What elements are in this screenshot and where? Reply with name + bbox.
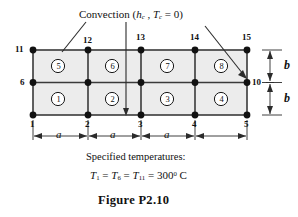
element-label-3: 3 bbox=[163, 95, 172, 104]
element-label-1: 1 bbox=[54, 95, 63, 104]
dim-arrow-a2-left bbox=[89, 133, 97, 139]
dim-arrow-a1-left bbox=[34, 133, 42, 139]
temp-unit: C bbox=[180, 169, 187, 181]
node-label-12: 12 bbox=[83, 36, 92, 45]
element-label-4: 4 bbox=[217, 95, 226, 104]
node-label-15: 15 bbox=[242, 33, 251, 42]
node-point-9 bbox=[192, 79, 199, 86]
node-label-5: 5 bbox=[244, 120, 249, 129]
dimension-label-b-bottom: b bbox=[284, 92, 290, 104]
dimension-label-b-top: b bbox=[284, 59, 290, 71]
dimension-label-a1: a bbox=[56, 129, 62, 140]
node-point-15 bbox=[244, 47, 251, 54]
dim-arrow-a3-right bbox=[186, 133, 194, 139]
node-label-6: 6 bbox=[20, 78, 25, 87]
dim-arrow-a2-right bbox=[132, 133, 140, 139]
convection-equals-zero: = 0) bbox=[162, 8, 183, 20]
convection-separator: , bbox=[145, 8, 153, 20]
figure-p210: Convection (hc , Tc = 0) 11 12 13 14 15 … bbox=[0, 0, 298, 217]
dim-arrow-b-top-up bbox=[267, 51, 273, 59]
element-label-7: 7 bbox=[163, 62, 172, 71]
figure-caption: Figure P2.10 bbox=[98, 194, 169, 207]
node-label-2: 2 bbox=[85, 120, 90, 129]
node-point-1 bbox=[30, 112, 37, 119]
node-label-13: 13 bbox=[136, 33, 145, 42]
dimension-label-a2: a bbox=[110, 129, 116, 140]
element-label-8: 8 bbox=[217, 62, 226, 71]
specified-temperatures-title: Specified temperatures: bbox=[86, 152, 185, 163]
node-point-4 bbox=[192, 112, 199, 119]
mesh-diagram-svg bbox=[0, 0, 298, 217]
dim-arrow-a1-right bbox=[79, 133, 87, 139]
node-label-10: 10 bbox=[252, 78, 261, 87]
dim-arrow-b-bottom-down bbox=[267, 106, 273, 114]
convection-label: Convection (hc , Tc = 0) bbox=[79, 9, 183, 21]
temperature-equation: T1 = T6 = T11 = 3000 C bbox=[90, 170, 187, 182]
node-label-14: 14 bbox=[190, 33, 199, 42]
node-label-1: 1 bbox=[30, 120, 35, 129]
dimension-label-a3: a bbox=[164, 129, 170, 140]
node-label-3: 3 bbox=[138, 120, 143, 129]
element-label-2: 2 bbox=[108, 95, 117, 104]
node-point-13 bbox=[138, 47, 145, 54]
node-label-11: 11 bbox=[15, 45, 24, 54]
node-point-5 bbox=[244, 112, 251, 119]
dim-arrow-a3-left bbox=[142, 133, 150, 139]
node-point-14 bbox=[192, 47, 199, 54]
node-point-2 bbox=[85, 112, 92, 119]
node-point-12 bbox=[85, 47, 92, 54]
element-label-5: 5 bbox=[54, 62, 63, 71]
element-label-6: 6 bbox=[108, 62, 117, 71]
node-point-10 bbox=[244, 79, 251, 86]
dim-arrow-b-bottom-up bbox=[267, 84, 273, 92]
node-point-7 bbox=[85, 79, 92, 86]
dim-arrow-a4-right bbox=[238, 133, 246, 139]
node-point-11 bbox=[30, 47, 37, 54]
node-point-6 bbox=[30, 79, 37, 86]
node-label-4: 4 bbox=[192, 120, 197, 129]
node-point-3 bbox=[138, 112, 145, 119]
dim-arrow-b-top-down bbox=[267, 73, 273, 81]
dim-arrow-a4-left bbox=[196, 133, 204, 139]
temp-value: 300 bbox=[157, 169, 174, 181]
convection-prefix: Convection ( bbox=[79, 8, 136, 20]
node-point-8 bbox=[138, 79, 145, 86]
